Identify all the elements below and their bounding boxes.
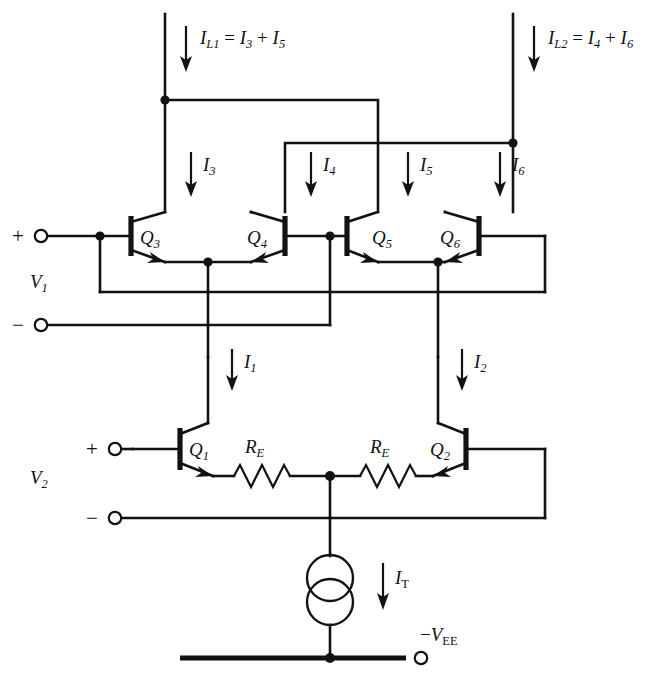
q4-symbol: Q: [247, 227, 261, 248]
label-i5: I5: [420, 155, 433, 174]
arrow-i3: [185, 152, 197, 197]
il2-term1-sub: 4: [594, 37, 600, 51]
label-il2-equation: IL2 = I4 + I6: [548, 28, 633, 47]
re-right-sub: E: [382, 446, 390, 460]
circuit-schematic-drawing: [0, 0, 655, 676]
resistor-re-right: [330, 465, 433, 487]
i3-sub: 3: [209, 164, 215, 178]
arrow-i1: [226, 349, 238, 391]
arrow-i5: [402, 152, 414, 197]
q4-sub: 4: [261, 237, 267, 251]
il1-sub: L1: [206, 37, 219, 51]
i6-sub: 6: [518, 164, 524, 178]
re-left-symbol: R: [245, 436, 257, 457]
node-q5q6-emitter: [433, 257, 442, 266]
terminal-v2-minus[interactable]: [109, 512, 121, 524]
v1-symbol: V: [30, 271, 42, 292]
collector-rail-left: [165, 100, 378, 212]
label-re-right: RE: [370, 437, 389, 456]
arrow-il2: [528, 26, 540, 72]
q6-sub: 6: [454, 237, 460, 251]
collector-rail-right: [285, 143, 513, 212]
q2-symbol: Q: [430, 439, 444, 460]
i1-sub: 1: [250, 361, 256, 375]
tail-current-source-symbol: [307, 555, 353, 658]
q3-sub: 3: [154, 237, 160, 251]
schematic-canvas: IL1 = I3 + I5 IL2 = I4 + I6 I3 I4 I5 I6 …: [0, 0, 655, 676]
vee-sub: EE: [442, 634, 457, 648]
label-i2: I2: [474, 352, 487, 371]
label-v1: V1: [30, 272, 48, 291]
il2-equals: =: [572, 27, 583, 48]
q6-symbol: Q: [440, 227, 454, 248]
terminal-v2-plus[interactable]: [109, 443, 121, 455]
v2-sub: 2: [42, 477, 48, 491]
il1-equals: =: [224, 27, 235, 48]
node-vee: [325, 653, 335, 663]
vee-minus: −: [420, 624, 431, 645]
q2-sub: 2: [444, 449, 450, 463]
v1-sub: 1: [42, 281, 48, 295]
label-q1: Q1: [189, 440, 209, 459]
label-it: IT: [395, 568, 409, 587]
arrow-i2: [456, 349, 468, 391]
it-sub: T: [401, 577, 409, 591]
q5-q6-emitter-node-wire: [378, 262, 445, 357]
label-re-left: RE: [245, 437, 264, 456]
label-i3: I3: [203, 155, 216, 174]
label-q6: Q6: [440, 228, 460, 247]
sign-v2-plus: +: [86, 439, 98, 460]
terminal-v1-minus[interactable]: [35, 319, 47, 331]
il1-plus: +: [257, 27, 268, 48]
arrow-il1: [180, 26, 192, 72]
v2-symbol: V: [30, 467, 42, 488]
il1-term2: I: [273, 27, 279, 48]
il2-plus: +: [605, 27, 616, 48]
label-q4: Q4: [247, 228, 267, 247]
arrow-it: [377, 563, 389, 610]
re-right-symbol: R: [370, 436, 382, 457]
label-q3: Q3: [140, 228, 160, 247]
vee-symbol: V: [431, 624, 443, 645]
il2-term2-sub: 6: [627, 37, 633, 51]
sign-v2-minus: −: [86, 508, 98, 529]
il1-term1-sub: 3: [246, 37, 252, 51]
node-q4q5-base: [325, 231, 334, 240]
v1-plus-wire: [48, 236, 545, 292]
terminal-vee[interactable]: [415, 652, 427, 664]
label-il1-equation: IL1 = I3 + I5: [200, 28, 285, 47]
q5-symbol: Q: [372, 227, 386, 248]
label-v2: V2: [30, 468, 48, 487]
label-i1: I1: [244, 352, 257, 371]
sign-v1-plus: +: [12, 226, 24, 247]
label-i4: I4: [323, 155, 336, 174]
q3-q4-emitter-node-wire: [165, 262, 251, 357]
re-left-sub: E: [257, 446, 265, 460]
node-il2: [508, 138, 517, 147]
il1-term2-sub: 5: [279, 37, 285, 51]
label-vee: −VEE: [420, 625, 458, 644]
transistor-q5: [330, 212, 378, 263]
i2-sub: 2: [480, 361, 486, 375]
il2-sub: L2: [554, 37, 567, 51]
terminal-v1-plus[interactable]: [35, 230, 47, 242]
q5-sub: 5: [386, 237, 392, 251]
transistor-q6: [445, 212, 545, 263]
il2-term2: I: [621, 27, 627, 48]
i4-sub: 4: [329, 164, 335, 178]
node-q3q4-emitter: [203, 257, 212, 266]
arrow-i6: [494, 152, 506, 197]
i5-sub: 5: [426, 164, 432, 178]
node-il1: [160, 95, 169, 104]
resistor-re-left: [213, 465, 330, 487]
arrow-i4: [305, 152, 317, 197]
q1-sub: 1: [203, 449, 209, 463]
node-v1-plus: [95, 231, 104, 240]
q1-symbol: Q: [189, 439, 203, 460]
sign-v1-minus: −: [12, 315, 24, 336]
q3-symbol: Q: [140, 227, 154, 248]
label-q5: Q5: [372, 228, 392, 247]
label-i6: I6: [512, 155, 525, 174]
label-q2: Q2: [430, 440, 450, 459]
